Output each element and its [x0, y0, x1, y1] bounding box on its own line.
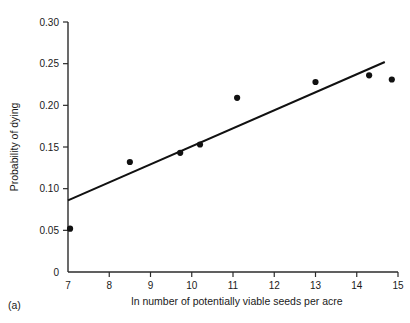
x-tick-label: 15 — [392, 280, 404, 291]
x-axis-title: ln number of potentially viable seeds pe… — [131, 295, 342, 307]
x-tick-label: 11 — [228, 280, 239, 291]
y-tick-label: 0.10 — [40, 183, 60, 194]
regression-line — [68, 62, 385, 200]
x-tick-label: 7 — [65, 280, 71, 291]
data-point — [234, 95, 240, 101]
data-point — [67, 226, 73, 232]
data-point — [366, 72, 372, 78]
y-tick-label: 0.25 — [40, 58, 60, 69]
data-point — [197, 141, 203, 147]
figure-panel: 00.050.100.150.200.250.30789101112131415… — [0, 0, 410, 323]
x-tick-label: 8 — [106, 280, 112, 291]
data-point — [312, 79, 318, 85]
x-tick-label: 10 — [186, 280, 198, 291]
data-point — [127, 159, 133, 165]
data-point — [177, 150, 183, 156]
y-tick-label: 0.05 — [40, 225, 60, 236]
x-tick-label: 9 — [148, 280, 154, 291]
data-point — [389, 76, 395, 82]
y-tick-label: 0 — [53, 267, 59, 278]
x-tick-label: 14 — [351, 280, 363, 291]
y-tick-label: 0.30 — [40, 17, 60, 28]
panel-label: (a) — [8, 299, 21, 311]
x-tick-label: 12 — [269, 280, 281, 291]
y-tick-label: 0.15 — [40, 142, 60, 153]
y-tick-label: 0.20 — [40, 100, 60, 111]
x-tick-label: 13 — [310, 280, 322, 291]
y-axis-title: Probability of dying — [8, 102, 20, 191]
scatter-plot: 00.050.100.150.200.250.30789101112131415… — [0, 0, 410, 323]
